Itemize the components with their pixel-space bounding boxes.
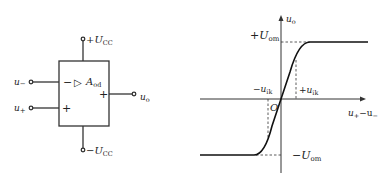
pos-supply-terminal xyxy=(81,37,85,41)
neg-sat-label: −Uom xyxy=(292,149,322,163)
noninverting-input-terminal xyxy=(29,106,33,110)
amplifier-triangle-icon: ▷ xyxy=(74,77,82,88)
output-terminal xyxy=(132,92,136,96)
neg-threshold-label: −uik xyxy=(253,84,272,96)
neg-supply-terminal xyxy=(81,148,85,152)
origin-label: O xyxy=(270,102,278,113)
output-pin-sign: + xyxy=(99,88,108,101)
x-axis-arrow-icon xyxy=(360,97,366,102)
pos-threshold-label: +uik xyxy=(299,85,318,97)
diagram-canvas: u− u+ − + + ▷ Aod uo +UCC −UCC uo u+−u− … xyxy=(0,0,390,185)
neg-supply-label: −UCC xyxy=(86,145,113,158)
opamp-symbol xyxy=(29,37,136,152)
gain-label: Aod xyxy=(85,76,101,89)
inverting-input-label: u− xyxy=(14,77,26,88)
output-label: uo xyxy=(140,92,150,104)
pos-supply-label: +UCC xyxy=(86,34,113,47)
minus-pin-sign: − xyxy=(63,76,72,89)
inverting-input-terminal xyxy=(29,80,33,84)
plus-pin-sign: + xyxy=(62,102,71,115)
noninverting-input-label: u+ xyxy=(14,103,26,115)
y-axis-arrow-icon xyxy=(279,15,284,21)
pos-sat-label: +Uom xyxy=(250,29,280,43)
y-axis-label: uo xyxy=(286,14,296,26)
x-axis-label: u+−u− xyxy=(348,108,378,120)
transfer-plot xyxy=(200,15,368,173)
